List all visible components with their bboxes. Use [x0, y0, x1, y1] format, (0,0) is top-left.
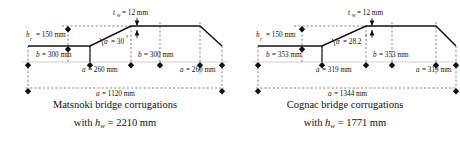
caption-title-left: Matsnoki bridge corrugations	[0, 96, 230, 113]
label-tw-sub-left: w	[117, 12, 121, 18]
label-tw-value-left: = 12 mm	[122, 9, 148, 17]
label-b-right-var-right: b	[373, 51, 377, 59]
caption-title-right: Cognac bridge corrugations	[230, 96, 460, 113]
label-b-right-value-right: = 353 mm	[379, 51, 409, 59]
diagram-svg-left: t w = 12 mm h r = 150 mm α = 30 ° b = 30…	[0, 0, 230, 96]
label-a-left-value-right: = 319 mm	[322, 66, 352, 74]
label-tw-var-right: t	[348, 9, 351, 17]
label-alpha-unit-left: °	[126, 35, 128, 41]
label-alpha-var-left: α	[104, 38, 108, 46]
label-b-left-var-left: b	[36, 51, 40, 59]
caption-with-right: with	[304, 117, 323, 128]
tw-arrowhead-upper-right	[370, 21, 375, 27]
corrugation-diagram-matsnoki: t w = 12 mm h r = 150 mm α = 30 ° b = 30…	[0, 0, 230, 96]
label-b-right-var-left: b	[138, 51, 142, 59]
caption-subtitle-right: with hw = 1771 mm	[230, 113, 460, 136]
caption-sub-left: w	[100, 122, 105, 130]
label-hr-sub-right: r	[260, 36, 263, 42]
caption-with-left: with	[74, 117, 93, 128]
label-a-left-value-left: = 260 mm	[88, 66, 118, 74]
label-b-right-value-left: = 300 mm	[144, 51, 174, 59]
caption-value-right: = 1771 mm	[338, 117, 387, 128]
label-a-right-var-right: a	[416, 66, 420, 74]
label-alpha-value-right: = 28.2	[343, 38, 362, 46]
label-alpha-unit-right: °	[365, 34, 367, 40]
label-a-right-value-left: = 260 mm	[186, 66, 216, 74]
label-tw-value-right: = 12 mm	[357, 9, 383, 17]
label-a-left-var-right: a	[316, 66, 320, 74]
corrugation-diagram-cognac: t w = 12 mm h r = 150 mm α = 28.2 ° b = …	[230, 0, 460, 96]
label-a-left-var-left: a	[82, 66, 86, 74]
panel-matsnoki: t w = 12 mm h r = 150 mm α = 30 ° b = 30…	[0, 0, 230, 150]
figure-sheet: t w = 12 mm h r = 150 mm α = 30 ° b = 30…	[0, 0, 460, 150]
tw-arrowhead-lower-right	[370, 30, 375, 36]
label-a-right-value-right: = 319 mm	[422, 66, 452, 74]
tw-arrowhead-upper-left	[135, 21, 140, 27]
label-tw-var-left: t	[113, 9, 116, 17]
label-hr-sub-left: r	[30, 36, 33, 42]
caption-cognac: Cognac bridge corrugations with hw = 177…	[230, 96, 460, 136]
caption-subtitle-left: with hw = 2210 mm	[0, 113, 230, 136]
caption-matsnoki: Matsnoki bridge corrugations with hw = 2…	[0, 96, 230, 136]
caption-sub-right: w	[330, 122, 335, 130]
label-b-left-var-right: b	[266, 51, 270, 59]
caption-value-left: = 2210 mm	[108, 117, 157, 128]
label-hr-value-left: = 150 mm	[36, 31, 66, 39]
label-b-left-value-right: = 353 mm	[272, 51, 302, 59]
panel-cognac: t w = 12 mm h r = 150 mm α = 28.2 ° b = …	[230, 0, 460, 150]
label-alpha-value-left: = 30	[111, 38, 124, 46]
label-alpha-var-right: α	[336, 38, 340, 46]
label-tw-sub-right: w	[352, 12, 356, 18]
diagram-svg-right: t w = 12 mm h r = 150 mm α = 28.2 ° b = …	[230, 0, 460, 96]
label-hr-value-right: = 150 mm	[266, 31, 296, 39]
label-b-left-value-left: = 300 mm	[42, 51, 72, 59]
tw-arrowhead-lower-left	[135, 30, 140, 36]
label-a-right-var-left: a	[180, 66, 184, 74]
